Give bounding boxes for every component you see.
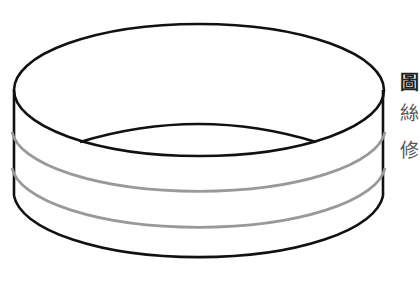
caption-char-1: 圖 bbox=[400, 72, 420, 92]
gray-band-upper bbox=[12, 132, 385, 191]
gray-band-lower bbox=[12, 168, 385, 227]
caption-char-3: 修 bbox=[400, 140, 420, 160]
inner-back-rim bbox=[80, 124, 316, 142]
top-rim-ellipse bbox=[14, 24, 384, 156]
caption-char-2: 絲 bbox=[400, 103, 420, 123]
